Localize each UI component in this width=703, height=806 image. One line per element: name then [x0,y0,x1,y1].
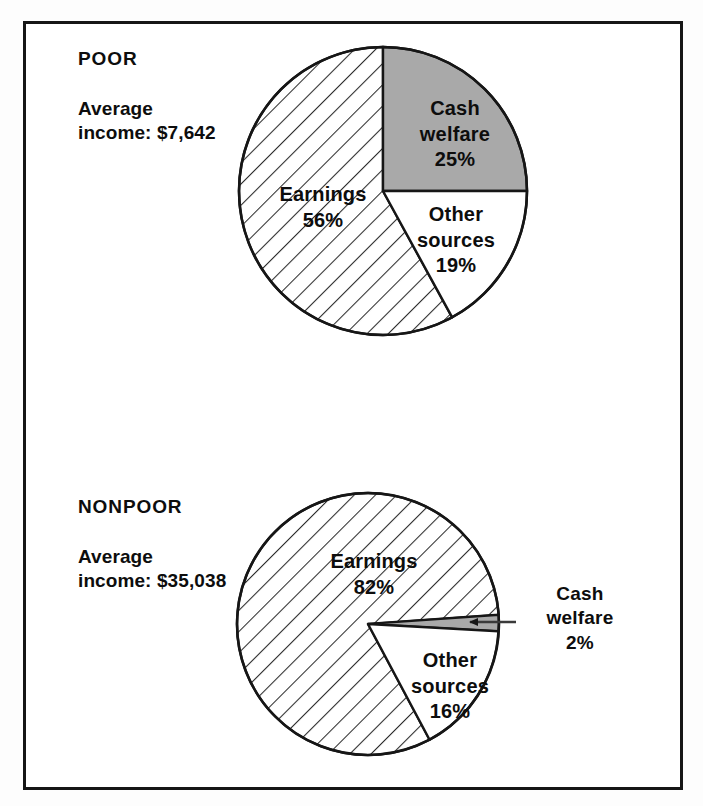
panel-title-poor: POOR [78,47,138,71]
poor-label-other-sources-pct: 19% [436,254,477,276]
nonpoor-label-other-sources: Othersources16% [393,648,507,725]
poor-average-income-line1: Average [78,98,153,119]
nonpoor-average-income: Averageincome: $35,038 [78,545,226,594]
poor-label-earnings: Earnings56% [258,182,388,233]
nonpoor-label-other-sources-line2: sources [411,675,489,697]
nonpoor-label-earnings-pct: 82% [354,576,395,598]
nonpoor-callout-cash-welfare-line1: Cash [556,583,603,604]
poor-label-other-sources: Othersources19% [400,202,512,279]
nonpoor-label-other-sources-pct: 16% [430,700,471,722]
poor-label-earnings-pct: 56% [303,209,344,231]
nonpoor-label-earnings: Earnings82% [305,549,443,600]
poor-label-cash-welfare: Cashwelfare25% [399,96,511,173]
nonpoor-callout-cash-welfare-line2: welfare [547,607,614,628]
poor-label-cash-welfare-line2: welfare [420,123,490,145]
figure-canvas: POOR Averageincome: $7,642 Earnings56% C… [0,0,703,806]
nonpoor-callout-cash-welfare-pct: 2% [566,632,594,653]
nonpoor-label-other-sources-line1: Other [423,649,477,671]
poor-average-income-line2: income: $7,642 [78,122,216,143]
nonpoor-callout-cash-welfare: Cashwelfare2% [520,582,640,655]
poor-label-earnings-name: Earnings [279,183,366,205]
nonpoor-label-earnings-name: Earnings [330,550,417,572]
poor-average-income: Averageincome: $7,642 [78,97,216,146]
nonpoor-average-income-line2: income: $35,038 [78,570,226,591]
poor-label-other-sources-line2: sources [417,229,495,251]
nonpoor-average-income-line1: Average [78,546,153,567]
poor-label-cash-welfare-pct: 25% [435,148,476,170]
poor-label-other-sources-line1: Other [429,203,483,225]
poor-label-cash-welfare-line1: Cash [430,97,480,119]
panel-title-nonpoor: NONPOOR [78,495,182,519]
